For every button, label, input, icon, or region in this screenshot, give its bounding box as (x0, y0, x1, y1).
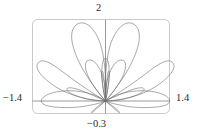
petal-right-down (106, 101, 120, 113)
petal-left-outer (41, 91, 105, 108)
x-axis-min-label: −1.4 (3, 92, 22, 103)
petal-right-outer (106, 91, 170, 108)
petal-left-down (91, 101, 105, 113)
plot-canvas (0, 0, 202, 133)
polar-rose-figure: 2 −1.4 1.4 −0.3 (0, 0, 202, 133)
plot-frame (33, 20, 170, 114)
axis-lines (33, 20, 170, 114)
x-axis-max-label: 1.4 (176, 92, 189, 103)
y-axis-max-label: 2 (96, 2, 101, 13)
y-axis-min-label: −0.3 (87, 118, 106, 129)
